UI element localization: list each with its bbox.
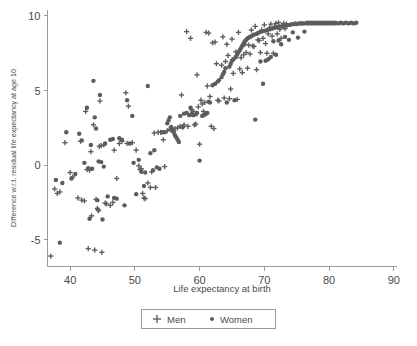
data-point xyxy=(69,176,73,180)
data-point xyxy=(86,166,90,170)
x-tick-label: 40 xyxy=(64,274,76,286)
data-point xyxy=(99,160,103,164)
data-point xyxy=(168,115,172,119)
data-point xyxy=(80,138,84,142)
data-point xyxy=(274,53,278,57)
data-point xyxy=(181,125,185,129)
data-point xyxy=(188,105,192,109)
data-point xyxy=(197,158,201,162)
data-point xyxy=(296,35,300,39)
data-point xyxy=(222,70,226,74)
data-point xyxy=(98,93,102,97)
data-point xyxy=(302,29,306,33)
data-point xyxy=(85,105,89,109)
data-point xyxy=(287,38,291,42)
data-point xyxy=(148,151,152,155)
data-point xyxy=(58,240,62,244)
y-tick-label: 0 xyxy=(34,159,40,171)
x-tick-label: 80 xyxy=(323,274,335,286)
data-point xyxy=(225,100,229,104)
x-tick-label: 50 xyxy=(129,274,141,286)
data-point xyxy=(87,217,91,221)
data-point xyxy=(152,148,156,152)
data-point xyxy=(232,98,236,102)
data-point xyxy=(120,138,124,142)
scatter-chart-figure: -50510 405060708090 Life expectancy at b… xyxy=(0,0,417,346)
y-axis-title: Difference w.r.t. residual life expectan… xyxy=(9,69,18,227)
data-point xyxy=(89,143,93,147)
x-axis-title: Life expectancy at birth xyxy=(173,283,271,294)
data-point xyxy=(131,161,135,165)
data-point xyxy=(105,194,109,198)
data-point xyxy=(111,137,115,141)
y-tick-label: 5 xyxy=(34,85,40,97)
data-point xyxy=(279,42,283,46)
y-tick-label: 10 xyxy=(28,10,40,22)
data-point xyxy=(100,217,104,221)
data-point xyxy=(128,141,132,145)
data-point xyxy=(122,203,126,207)
data-point xyxy=(143,170,147,174)
data-point xyxy=(64,130,68,134)
data-point xyxy=(95,198,99,202)
data-point xyxy=(93,115,97,119)
data-point xyxy=(261,82,265,86)
data-point xyxy=(103,141,107,145)
data-point xyxy=(102,164,106,168)
data-point xyxy=(130,114,134,118)
data-point xyxy=(223,66,227,70)
data-point xyxy=(291,30,295,34)
y-tick-label: -5 xyxy=(31,234,41,246)
data-point xyxy=(258,59,262,63)
data-point xyxy=(269,55,273,59)
data-point xyxy=(137,158,141,162)
data-point xyxy=(162,130,166,134)
data-point xyxy=(253,117,257,121)
x-tick-label: 90 xyxy=(388,274,400,286)
data-point xyxy=(82,161,86,165)
data-point xyxy=(77,132,81,136)
data-point xyxy=(151,168,155,172)
data-point xyxy=(60,181,64,185)
data-point xyxy=(146,84,150,88)
legend-label-men: Men xyxy=(167,314,185,325)
data-point xyxy=(125,98,129,102)
data-point xyxy=(90,167,94,171)
data-point xyxy=(54,178,58,182)
data-point xyxy=(73,172,77,176)
data-point xyxy=(115,196,119,200)
data-point xyxy=(195,111,199,115)
data-point xyxy=(276,38,280,42)
data-point xyxy=(91,79,95,83)
dot-icon xyxy=(210,317,214,321)
data-point xyxy=(205,111,209,115)
data-point xyxy=(142,184,146,188)
chart-background xyxy=(0,0,417,346)
data-point xyxy=(94,126,98,130)
chart-svg: -50510 405060708090 Life expectancy at b… xyxy=(0,0,417,346)
data-point xyxy=(134,192,138,196)
data-point xyxy=(271,39,275,43)
data-point xyxy=(139,170,143,174)
legend-label-women: Women xyxy=(220,314,253,325)
data-point xyxy=(178,114,182,118)
data-point xyxy=(283,35,287,39)
data-point xyxy=(208,100,212,104)
data-point xyxy=(157,167,161,171)
data-point xyxy=(354,20,358,24)
data-point xyxy=(177,140,181,144)
